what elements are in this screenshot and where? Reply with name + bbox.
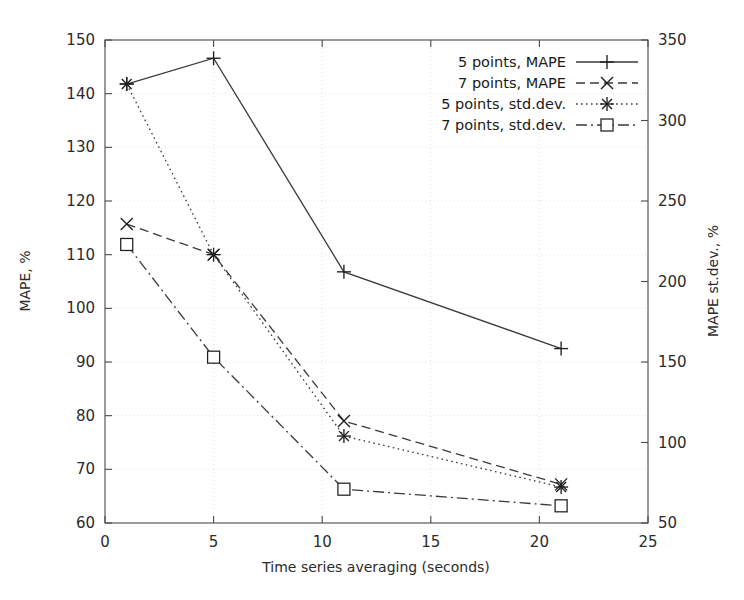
y-tick-label: 90 <box>76 353 95 371</box>
legend-label: 7 points, MAPE <box>458 75 566 91</box>
marker-asterisk <box>600 97 614 111</box>
y-axis-title: MAPE, % <box>17 250 33 311</box>
chart-background <box>0 0 744 600</box>
y2-tick-label: 350 <box>658 31 687 49</box>
legend-label: 5 points, MAPE <box>458 54 566 70</box>
marker-square <box>555 500 567 512</box>
y-tick-label: 110 <box>66 246 95 264</box>
x-tick-label: 20 <box>530 533 549 551</box>
x-tick-label: 5 <box>209 533 219 551</box>
chart-figure: 0510152025 60708090100110120130140150 50… <box>0 0 744 600</box>
y2-tick-label: 50 <box>658 514 677 532</box>
y-tick-label: 140 <box>66 85 95 103</box>
y2-tick-label: 200 <box>658 273 687 291</box>
x-tick-label: 0 <box>100 533 110 551</box>
y-tick-label: 60 <box>76 514 95 532</box>
marker-asterisk <box>207 248 221 262</box>
y2-tick-label: 100 <box>658 434 687 452</box>
x-tick-label: 10 <box>313 533 332 551</box>
marker-asterisk <box>337 429 351 443</box>
y-tick-label: 100 <box>66 299 95 317</box>
marker-asterisk <box>120 77 134 91</box>
legend-label: 5 points, std.dev. <box>441 96 566 112</box>
x-axis-title: Time series averaging (seconds) <box>261 559 490 575</box>
y2-axis-title: MAPE st.dev., % <box>705 225 721 337</box>
legend-label: 7 points, std.dev. <box>441 117 566 133</box>
x-tick-label: 15 <box>421 533 440 551</box>
y2-tick-label: 250 <box>658 192 687 210</box>
marker-asterisk <box>554 480 568 494</box>
marker-square <box>208 351 220 363</box>
y2-tick-label: 150 <box>658 353 687 371</box>
y-tick-label: 70 <box>76 460 95 478</box>
x-tick-label: 25 <box>638 533 657 551</box>
y-tick-label: 130 <box>66 138 95 156</box>
y2-tick-label: 300 <box>658 112 687 130</box>
y-tick-label: 150 <box>66 31 95 49</box>
legend-entry-3: 7 points, std.dev. <box>441 117 638 133</box>
y-tick-label: 120 <box>66 192 95 210</box>
line-chart: 0510152025 60708090100110120130140150 50… <box>0 0 744 600</box>
y-tick-label: 80 <box>76 407 95 425</box>
marker-square <box>601 119 613 131</box>
marker-square <box>338 483 350 495</box>
marker-square <box>121 238 133 250</box>
